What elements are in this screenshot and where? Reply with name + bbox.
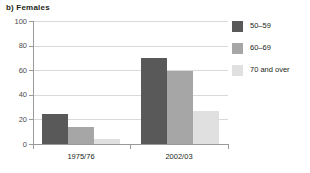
x-tick-right xyxy=(228,145,229,149)
x-axis-line xyxy=(33,144,229,145)
x-tick-mid xyxy=(130,145,131,149)
y-axis-label-80: 80 xyxy=(3,42,27,50)
legend-label-70-over: 70 and over xyxy=(250,66,290,74)
y-axis-label-20: 20 xyxy=(3,116,27,124)
x-tick-left xyxy=(33,145,34,149)
y-axis-label-40: 40 xyxy=(3,91,27,99)
x-axis-label-2002: 2002/03 xyxy=(149,152,209,161)
chart-container: b) Females 100 80 60 40 20 0 1975/76 200… xyxy=(0,0,310,173)
plot-area xyxy=(33,21,228,144)
bar-1975-70-over xyxy=(94,139,120,144)
bar-1975-60-69 xyxy=(68,127,94,144)
legend-item-70-over: 70 and over xyxy=(232,64,308,76)
legend-swatch-50-59 xyxy=(232,21,243,32)
chart-title: b) Females xyxy=(6,3,50,12)
legend-item-50-59: 50–59 xyxy=(232,20,308,32)
y-axis-label-0: 0 xyxy=(3,141,27,149)
bar-1975-50-59 xyxy=(42,114,68,144)
bar-2002-50-59 xyxy=(141,58,167,144)
bar-2002-70-over xyxy=(193,111,219,144)
legend-swatch-70-over xyxy=(232,65,243,76)
y-axis-label-60: 60 xyxy=(3,67,27,75)
legend-swatch-60-69 xyxy=(232,43,243,54)
legend-label-60-69: 60–69 xyxy=(250,44,271,52)
legend-label-50-59: 50–59 xyxy=(250,22,271,30)
chart-legend: 50–59 60–69 70 and over xyxy=(232,20,308,86)
legend-item-60-69: 60–69 xyxy=(232,42,308,54)
x-axis-label-1975: 1975/76 xyxy=(51,152,111,161)
y-axis-label-100: 100 xyxy=(3,18,27,26)
bar-2002-60-69 xyxy=(167,71,193,144)
